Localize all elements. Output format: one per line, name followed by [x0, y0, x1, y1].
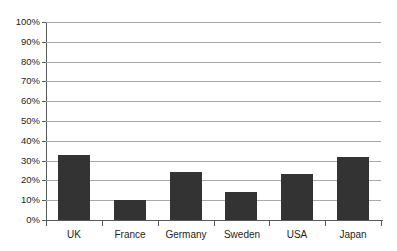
y-axis-tick [42, 101, 46, 102]
x-axis-tick [381, 221, 382, 226]
x-axis-label-uk: UK [46, 229, 102, 241]
y-axis-tick-label: 100% [2, 17, 40, 27]
bar-germany[interactable] [170, 172, 202, 220]
x-axis-label-japan: Japan [325, 229, 381, 241]
gridline-60 [46, 101, 381, 102]
gridline-80 [46, 62, 381, 63]
y-axis-tick [42, 22, 46, 23]
chart-title-cropped [0, 0, 397, 7]
y-axis-tick [42, 81, 46, 82]
gridline-20 [46, 180, 381, 181]
y-axis-tick-label: 20% [2, 175, 40, 185]
x-axis-label-usa: USA [269, 229, 325, 241]
gridline-100 [46, 22, 381, 23]
y-axis-tick-label: 0% [2, 215, 40, 225]
y-axis-tick-label: 60% [2, 96, 40, 106]
gridline-90 [46, 42, 381, 43]
bar-usa[interactable] [281, 174, 313, 220]
x-axis-label-sweden: Sweden [214, 229, 270, 241]
y-axis-tick [42, 121, 46, 122]
bar-japan[interactable] [337, 157, 369, 220]
gridline-10 [46, 200, 381, 201]
x-axis-tick [325, 221, 326, 226]
x-axis-tick [46, 221, 47, 226]
x-axis-tick [214, 221, 215, 226]
y-axis-tick-label: 50% [2, 116, 40, 126]
bar-chart: 100%90%80%70%60%50%40%30%20%10%0% UKFran… [0, 0, 397, 251]
y-axis-labels: 100%90%80%70%60%50%40%30%20%10%0% [0, 0, 40, 251]
y-axis-tick-label: 40% [2, 136, 40, 146]
x-axis-label-france: France [102, 229, 158, 241]
y-axis-tick [42, 180, 46, 181]
y-axis-tick-label: 90% [2, 37, 40, 47]
gridline-50 [46, 121, 381, 122]
gridline-30 [46, 161, 381, 162]
y-axis-tick [42, 200, 46, 201]
x-axis-tick [158, 221, 159, 226]
y-axis-tick [42, 42, 46, 43]
y-axis-tick [42, 161, 46, 162]
plot-area [46, 22, 381, 220]
y-axis-tick [42, 141, 46, 142]
y-axis-tick-label: 10% [2, 195, 40, 205]
x-axis-label-germany: Germany [158, 229, 214, 241]
bar-uk[interactable] [58, 155, 90, 220]
x-axis-tick [102, 221, 103, 226]
y-axis-tick [42, 62, 46, 63]
gridline-40 [46, 141, 381, 142]
y-axis-tick-label: 30% [2, 156, 40, 166]
bar-sweden[interactable] [225, 192, 257, 220]
y-axis-tick-label: 80% [2, 57, 40, 67]
gridline-70 [46, 81, 381, 82]
bar-france[interactable] [114, 200, 146, 220]
y-axis-tick-label: 70% [2, 76, 40, 86]
x-axis-tick [269, 221, 270, 226]
